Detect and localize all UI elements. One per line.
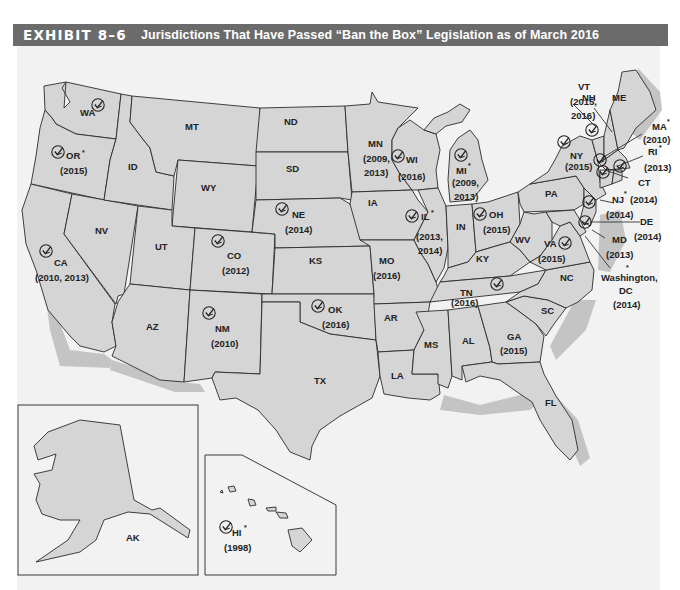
svg-text:*: * [244,524,247,531]
state-co [190,228,275,294]
svg-text:NJ: NJ [612,194,624,205]
svg-text:IN: IN [456,221,466,232]
svg-text:(2015): (2015) [565,161,592,172]
svg-text:GA: GA [507,331,521,342]
svg-text:KY: KY [476,253,490,264]
svg-text:KS: KS [309,255,322,266]
svg-text:(2014): (2014) [634,231,661,242]
svg-text:WY: WY [201,182,217,193]
svg-text:(2010, 2013): (2010, 2013) [35,272,89,283]
svg-text:FL: FL [545,397,557,408]
svg-text:NM: NM [215,323,230,334]
svg-text:MA: MA [652,121,667,132]
svg-text:LA: LA [391,370,404,381]
svg-text:(2014): (2014) [606,209,633,220]
svg-text:NE: NE [292,209,305,220]
svg-text:*: * [667,118,670,125]
svg-text:MO: MO [379,255,394,266]
svg-text:2014): 2014) [418,245,442,256]
svg-text:(2014): (2014) [613,299,640,310]
svg-text:(1998): (1998) [224,542,251,553]
us-map: WA OR * (2015) CA (2010, 2013) ID NV MT … [0,0,680,590]
svg-text:VT: VT [578,81,590,92]
svg-text:2013): 2013) [454,191,478,202]
svg-text:SC: SC [541,305,554,316]
svg-text:(2015): (2015) [538,253,565,264]
svg-text:NC: NC [560,272,574,283]
svg-text:DE: DE [640,216,653,227]
svg-text:(2010): (2010) [211,338,238,349]
svg-text:(2010): (2010) [643,134,670,145]
svg-text:AR: AR [384,312,398,323]
state-mi-upper [424,104,470,134]
svg-text:(2016): (2016) [398,171,425,182]
svg-text:2016): 2016) [571,110,595,121]
svg-text:CA: CA [54,257,68,268]
svg-text:(2015): (2015) [483,224,510,235]
svg-text:NY: NY [570,150,584,161]
svg-text:AK: AK [126,532,140,543]
svg-text:CO: CO [227,250,241,261]
svg-text:(2016): (2016) [322,319,349,330]
svg-text:AZ: AZ [146,321,159,332]
svg-text:OH: OH [489,209,503,220]
svg-text:OK: OK [328,304,342,315]
svg-text:(2012): (2012) [222,265,249,276]
svg-text:(2015): (2015) [60,165,87,176]
svg-text:*: * [626,264,629,271]
svg-text:ID: ID [128,161,138,172]
svg-text:MT: MT [185,121,199,132]
state-ks [272,246,374,294]
state-nd [256,106,348,152]
svg-text:RI: RI [648,146,658,157]
svg-text:(2014): (2014) [285,224,312,235]
hawaii-inset [205,455,336,575]
svg-text:PA: PA [545,188,558,199]
svg-text:*: * [659,144,662,151]
svg-text:*: * [624,190,627,197]
svg-text:WA: WA [80,107,95,118]
checkmark-in-circle-icon [220,521,232,533]
svg-text:VA: VA [544,238,557,249]
svg-text:OR: OR [66,150,80,161]
svg-text:(2013): (2013) [606,249,633,260]
svg-text:NV: NV [95,225,109,236]
svg-text:2013): 2013) [364,167,388,178]
svg-text:(2016): (2016) [373,270,400,281]
svg-text:(2013): (2013) [644,162,671,173]
svg-text:Washington,: Washington, [601,272,658,283]
state-sd [256,152,352,200]
svg-text:(2009,: (2009, [452,177,479,188]
state-nm [184,290,262,382]
svg-text:*: * [82,149,85,156]
svg-text:MS: MS [424,339,438,350]
svg-text:NH: NH [582,92,596,103]
svg-text:(2009,: (2009, [363,153,390,164]
svg-text:(2014): (2014) [630,194,657,205]
svg-text:DC: DC [619,285,633,296]
svg-text:(2015): (2015) [500,345,527,356]
svg-text:ME: ME [612,92,626,103]
svg-text:ND: ND [284,116,298,127]
svg-text:*: * [431,209,434,216]
svg-text:*: * [468,162,471,169]
state-wy [172,160,258,232]
svg-text:HI: HI [232,527,242,538]
svg-text:CT: CT [638,177,651,188]
svg-text:WV: WV [515,234,531,245]
svg-text:MD: MD [612,234,627,245]
svg-text:IA: IA [368,197,378,208]
svg-text:(2013,: (2013, [416,231,443,242]
alaska-inset [18,405,198,575]
svg-text:MI: MI [456,165,467,176]
svg-text:SD: SD [286,163,299,174]
svg-text:WI: WI [406,154,418,165]
svg-text:UT: UT [155,241,168,252]
svg-text:MN: MN [368,138,383,149]
svg-text:TX: TX [314,375,327,386]
svg-text:(2016): (2016) [451,297,478,308]
svg-text:AL: AL [462,335,475,346]
checkmark-in-circle-icon [586,124,598,136]
svg-text:IL: IL [421,211,430,222]
